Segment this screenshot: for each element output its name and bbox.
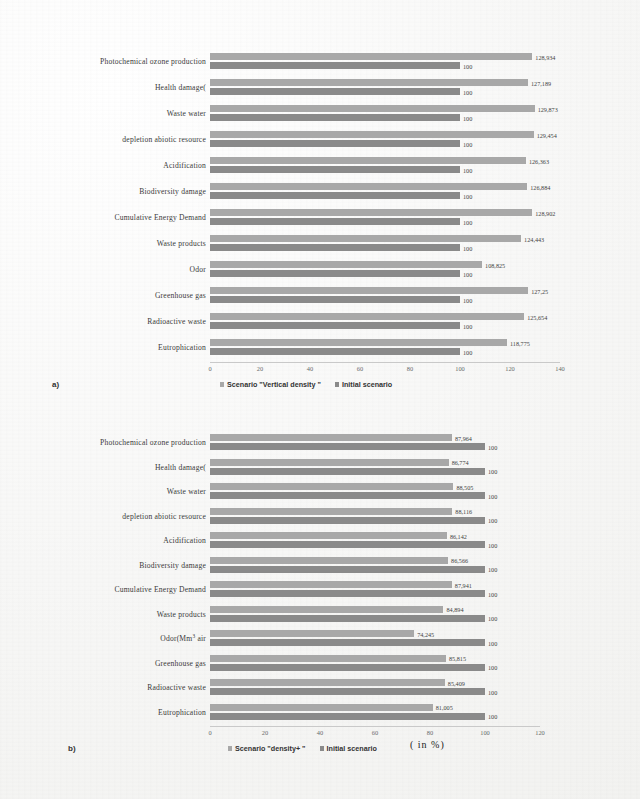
bar-value-label: 100: [463, 218, 472, 225]
bar-value-label: 81,005: [436, 704, 453, 711]
bar-scenario: 126,884: [210, 183, 527, 190]
bar-value-label: 128,934: [535, 53, 555, 60]
bar-group: 129,873100: [210, 105, 560, 123]
bar-initial: 100: [210, 590, 485, 597]
bar-scenario: 126,363: [210, 157, 526, 164]
category-row: Acidification126,363100: [0, 152, 640, 178]
bar-value-label: 125,654: [527, 313, 547, 320]
legend-swatch-icon: [220, 382, 224, 387]
category-axis-label: Odor(Mm3 air: [6, 633, 206, 644]
category-row: Cumulative Energy Demand128,902100: [0, 204, 640, 230]
bar-value-label: 100: [488, 713, 497, 720]
bar-group: 127,189100: [210, 79, 560, 97]
category-axis-label: Radioactive waste: [6, 683, 206, 692]
bar-value-label: 100: [488, 639, 497, 646]
legend-item[interactable]: Initial scenario: [320, 744, 377, 753]
bar-scenario: 87,964: [210, 434, 452, 441]
category-axis-label: Waste water: [6, 109, 206, 118]
bar-value-label: 88,505: [456, 483, 473, 490]
legend-item[interactable]: Scenario "density+ ": [228, 744, 306, 753]
category-row: Photochemical ozone production87,964100: [0, 430, 640, 455]
bar-scenario: 74,245: [210, 630, 414, 637]
bar-value-label: 100: [488, 492, 497, 499]
category-axis-label: Health damage(: [6, 83, 206, 92]
category-row: Odor108,825100: [0, 256, 640, 282]
x-axis-line: [210, 362, 560, 363]
bar-initial: 100: [210, 541, 485, 548]
category-axis-label: depletion abiotic resource: [6, 511, 206, 520]
x-axis-tick: 40: [317, 729, 323, 736]
category-row: Biodiversity damage86,566100: [0, 553, 640, 578]
legend-item[interactable]: Initial scenario: [335, 380, 392, 389]
category-row: Greenhouse gas85,815100: [0, 651, 640, 676]
bar-value-label: 74,245: [417, 630, 434, 637]
category-axis-label: Biodiversity damage: [6, 187, 206, 196]
x-axis-tick: 0: [208, 365, 211, 372]
category-row: Waste water129,873100: [0, 100, 640, 126]
bar-scenario: 85,409: [210, 679, 445, 686]
bar-initial: 100: [210, 664, 485, 671]
bar-group: 124,443100: [210, 235, 560, 253]
category-axis-label: Acidification: [6, 161, 206, 170]
bar-group: 128,902100: [210, 209, 560, 227]
bar-scenario: 81,005: [210, 704, 433, 711]
bar-group: 127,25100: [210, 287, 560, 305]
bar-scenario: 127,25: [210, 287, 528, 294]
bar-value-label: 87,964: [455, 434, 472, 441]
bar-group: 125,654100: [210, 313, 560, 331]
bar-initial: 100: [210, 140, 460, 147]
bar-initial: 100: [210, 443, 485, 450]
bar-value-label: 129,873: [538, 105, 558, 112]
category-axis-label: depletion abiotic resource: [6, 135, 206, 144]
category-axis-label: Waste water: [6, 487, 206, 496]
legend-item[interactable]: Scenario "Vertical density ": [220, 380, 321, 389]
bar-value-label: 100: [463, 244, 472, 251]
bar-group: 85,409100: [210, 679, 540, 697]
category-axis-label: Photochemical ozone production: [6, 438, 206, 447]
bar-initial: 100: [210, 468, 485, 475]
bar-group: 86,142100: [210, 532, 540, 550]
bar-scenario: 125,654: [210, 313, 524, 320]
bar-value-label: 100: [488, 517, 497, 524]
x-axis-tick: 20: [262, 729, 268, 736]
bar-value-label: 126,363: [529, 157, 549, 164]
bar-scenario: 88,505: [210, 483, 453, 490]
bar-initial: 100: [210, 517, 485, 524]
bar-value-label: 100: [463, 166, 472, 173]
bar-scenario: 86,566: [210, 557, 448, 564]
category-row: Health damage(86,774100: [0, 455, 640, 480]
bar-scenario: 84,894: [210, 606, 443, 613]
category-axis-label: Radioactive waste: [6, 317, 206, 326]
chart-legend: Scenario "density+ "Initial scenario: [228, 744, 377, 753]
bar-initial: 100: [210, 688, 485, 695]
bar-initial: 100: [210, 88, 460, 95]
category-axis-label: Waste products: [6, 239, 206, 248]
x-axis-tick: 140: [555, 365, 565, 372]
bar-value-label: 86,142: [450, 532, 467, 539]
unit-annotation: ( in %): [410, 739, 445, 750]
bar-initial: 100: [210, 244, 460, 251]
legend-label: Initial scenario: [327, 744, 377, 753]
x-axis-line: [210, 726, 540, 727]
x-axis-tick: 40: [307, 365, 313, 372]
chart-panel-a: Photochemical ozone production128,934100…: [0, 18, 640, 408]
bar-group: 88,116100: [210, 508, 540, 526]
category-row: Radioactive waste125,654100: [0, 308, 640, 334]
category-row: Acidification86,142100: [0, 528, 640, 553]
bar-scenario: 129,873: [210, 105, 535, 112]
bar-value-label: 85,409: [448, 679, 465, 686]
bar-value-label: 100: [488, 566, 497, 573]
bar-value-label: 129,454: [537, 131, 557, 138]
category-row: Waste products84,894100: [0, 602, 640, 627]
category-axis-label: Eutrophication: [6, 343, 206, 352]
bar-value-label: 126,884: [530, 183, 550, 190]
bar-value-label: 100: [488, 615, 497, 622]
bar-group: 126,884100: [210, 183, 560, 201]
bar-value-label: 100: [488, 664, 497, 671]
panel-label-b: b): [68, 744, 76, 753]
bar-value-label: 84,894: [446, 606, 463, 613]
legend-swatch-icon: [320, 746, 324, 751]
bar-initial: 100: [210, 114, 460, 121]
x-axis-tick: 80: [407, 365, 413, 372]
x-axis-tick: 60: [372, 729, 378, 736]
